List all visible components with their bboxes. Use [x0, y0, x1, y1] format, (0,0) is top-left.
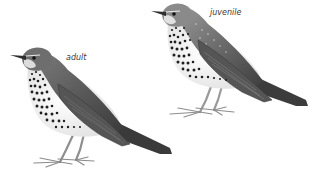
adult-feet — [34, 157, 94, 167]
juvenile-bird — [151, 3, 308, 117]
adult-label: adult — [66, 54, 86, 62]
adult-legs — [60, 133, 84, 162]
juvenile-feet — [170, 107, 234, 117]
juvenile-label: juvenile — [210, 9, 241, 17]
birds-drawing — [0, 0, 320, 187]
adult-bird — [10, 47, 172, 167]
thrush-illustration: adult juvenile — [0, 0, 320, 187]
juvenile-eye — [172, 12, 176, 16]
adult-eye — [32, 56, 36, 60]
juvenile-head — [162, 3, 193, 26]
adult-head — [22, 47, 53, 70]
